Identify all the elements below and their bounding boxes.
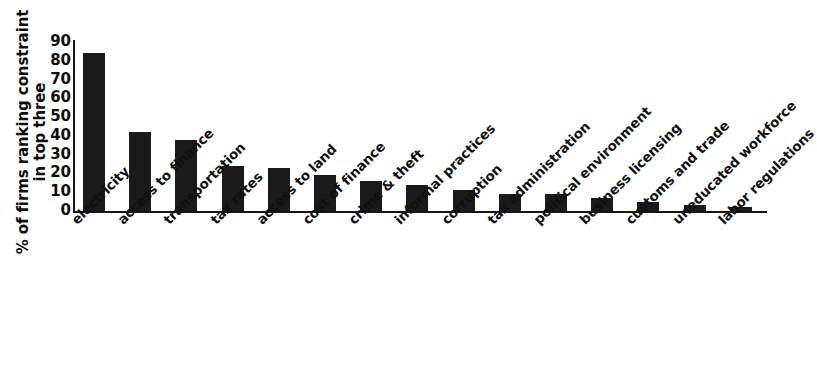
y-axis-tick-label: 90: [37, 34, 71, 49]
y-axis-tick-label: 60: [37, 90, 71, 105]
y-axis-tick-label: 70: [37, 72, 71, 87]
bar: [360, 181, 382, 211]
bar: [129, 132, 151, 211]
bar: [222, 166, 244, 211]
y-axis-tick-label: 30: [37, 147, 71, 162]
bar: [406, 185, 428, 211]
y-axis-tick-label: 80: [37, 53, 71, 68]
bar-series: [75, 0, 767, 368]
bar: [591, 198, 613, 211]
y-axis-tick-label: 40: [37, 128, 71, 143]
bar: [637, 202, 659, 211]
bar: [499, 194, 521, 211]
y-axis-title-line-1: % of firms ranking constraint: [15, 10, 32, 255]
y-axis-tick-label: 0: [37, 203, 71, 218]
y-axis-tick-label: 50: [37, 109, 71, 124]
bar: [545, 194, 567, 211]
bar: [314, 175, 336, 211]
bar: [175, 140, 197, 211]
bar: [684, 205, 706, 211]
y-axis-tick-labels: 0102030405060708090: [31, 0, 71, 368]
bar: [453, 190, 475, 211]
bar: [83, 53, 105, 211]
bar: [730, 207, 752, 211]
bar: [268, 168, 290, 211]
y-axis-tick-label: 10: [37, 184, 71, 199]
y-axis-tick-label: 20: [37, 165, 71, 180]
